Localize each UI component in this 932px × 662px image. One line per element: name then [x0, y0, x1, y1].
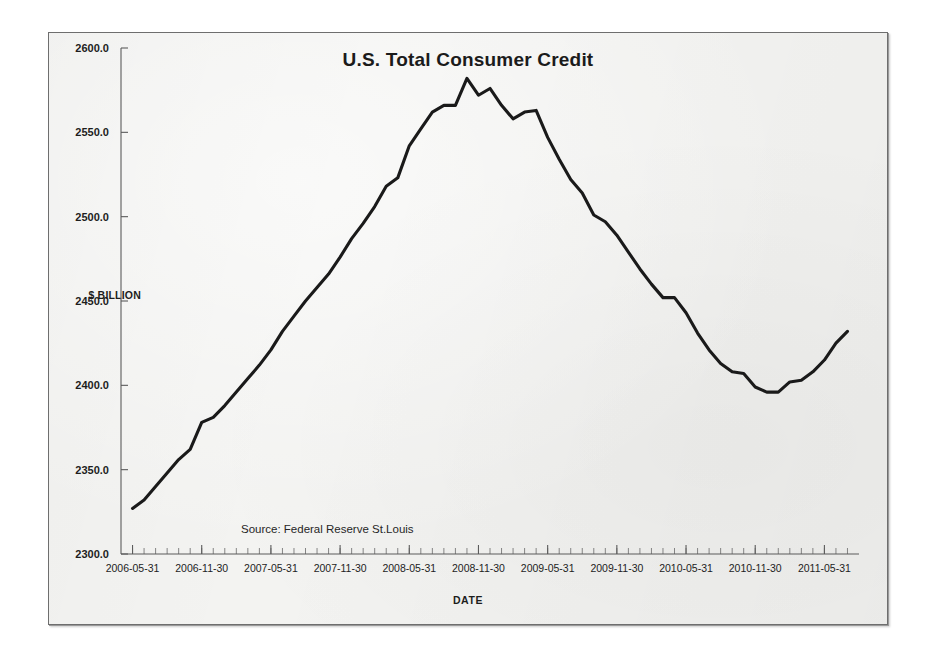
- y-tick-label: 2500.0: [75, 211, 109, 223]
- y-tick-label-group: 2300.02350.02400.02450.02500.02550.02600…: [75, 42, 109, 560]
- source-annotation: Source: Federal Reserve St.Louis: [241, 523, 414, 535]
- x-tick-label: 2010-05-31: [659, 562, 713, 574]
- chart-frame: U.S. Total Consumer Credit $ BILLION 230…: [48, 32, 888, 625]
- y-tick-label: 2350.0: [75, 464, 109, 476]
- x-tick-label-group: 2006-05-312006-11-302007-05-312007-11-30…: [106, 562, 851, 574]
- x-tick-label: 2008-11-30: [452, 562, 505, 574]
- y-tick-label: 2600.0: [75, 42, 109, 54]
- x-tick-label: 2006-05-31: [106, 562, 160, 574]
- y-tick-label: 2400.0: [75, 379, 109, 391]
- x-tick-label: 2006-11-30: [175, 562, 228, 574]
- x-minor-tick-group: [133, 548, 848, 554]
- x-tick-label: 2009-05-31: [521, 562, 575, 574]
- x-tick-label: 2011-05-31: [798, 562, 851, 574]
- x-tick-label: 2009-11-30: [590, 562, 643, 574]
- x-tick-label: 2008-05-31: [382, 562, 436, 574]
- line-chart-plot: 2300.02350.02400.02450.02500.02550.02600…: [49, 33, 887, 624]
- data-series-line: [133, 78, 848, 508]
- y-tick-label: 2450.0: [75, 295, 109, 307]
- y-tick-label: 2300.0: [75, 548, 109, 560]
- x-tick-label: 2007-11-30: [314, 562, 367, 574]
- x-tick-label: 2010-11-30: [729, 562, 782, 574]
- x-axis-title: DATE: [49, 594, 887, 606]
- x-tick-label: 2007-05-31: [244, 562, 298, 574]
- y-tick-label: 2550.0: [75, 126, 109, 138]
- y-tick-mark-group: [121, 48, 128, 554]
- figure-page: U.S. Total Consumer Credit $ BILLION 230…: [0, 0, 932, 662]
